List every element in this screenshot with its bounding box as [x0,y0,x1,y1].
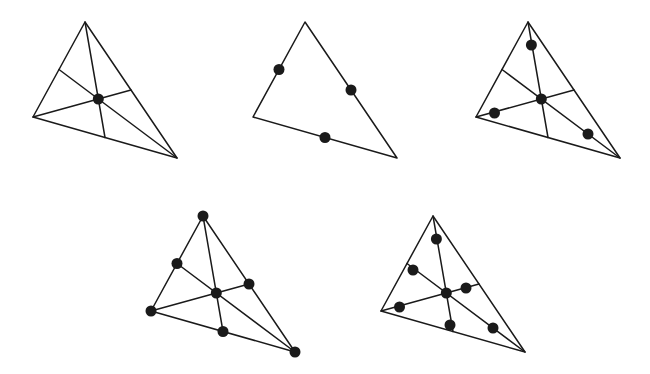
triangle-panel-bottom-left [146,211,301,358]
dot-centroid [441,288,452,299]
median-right-to-apex_left [407,264,525,353]
median-apex-to-left_right [85,22,105,138]
triangle-panel-top-middle [253,22,397,158]
dot-midpoint-apex-right [346,85,357,96]
dot-midpoint-left-right [320,132,331,143]
triangle-panel-top-right [476,22,620,158]
panels-layer [33,22,620,358]
dot-median-point-toward-apex-right-midpoint [461,283,472,294]
median-right-to-apex_left [502,70,620,159]
figure-container [0,0,650,374]
triangle-panel-bottom-right [381,216,525,352]
dot-centroid [536,94,547,105]
triangle-figure [0,0,650,374]
median-apex-to-left_right [528,22,548,138]
dot-vertex-left [146,306,157,317]
dot-median-point-from-left [394,302,405,313]
dot-median-point-toward-apex-left-midpoint [408,265,419,276]
dot-vertex-right [290,347,301,358]
median-right-to-apex_left [59,70,177,159]
dot-median-point-from-right [583,129,594,140]
dot-midpoint-apex-left [274,64,285,75]
dot-median-point-from-apex [431,234,442,245]
dot-centroid [93,94,104,105]
triangle-panel-top-left [33,22,177,158]
dot-midpoint-apex-left [172,258,183,269]
dot-centroid [211,288,222,299]
dot-vertex-apex [198,211,209,222]
dot-midpoint-apex-right [244,279,255,290]
dot-median-point-from-left [489,108,500,119]
median-apex-to-left_right [203,216,223,332]
median-right-to-apex_left [177,264,295,353]
dot-median-point-toward-left-right-midpoint [445,320,456,331]
dot-midpoint-left-right [218,326,229,337]
dot-median-point-from-apex [526,40,537,51]
median-apex-to-left_right [433,216,453,332]
dot-median-point-from-right [488,323,499,334]
